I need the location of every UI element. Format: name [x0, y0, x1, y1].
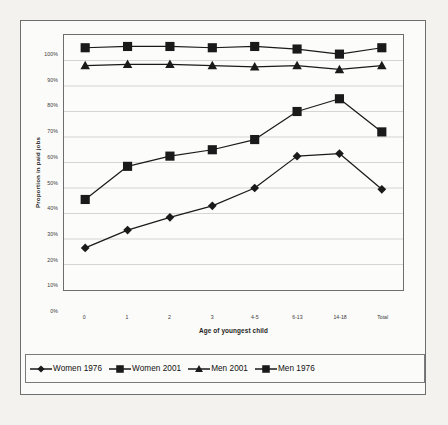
data-point [165, 42, 174, 51]
chart-canvas [64, 35, 403, 290]
y-axis-tick-labels: 100%90%80%70%60%50%40%30%20%10%0% [21, 54, 61, 311]
y-axis-title: Proportion in paid jobs [34, 113, 41, 233]
legend-entry[interactable]: Men 1976 [255, 364, 315, 374]
y-tick-label: 80% [47, 102, 58, 108]
data-point [292, 61, 302, 69]
legend-marker-square-icon [109, 364, 131, 374]
x-tick-label: 6-13 [292, 314, 302, 320]
data-point [165, 152, 174, 161]
legend-entries: Women 1976Women 2001Men 2001Men 1976 [30, 364, 322, 374]
data-point [208, 145, 217, 154]
data-point [81, 43, 90, 52]
chart-frame: 100%90%80%70%60%50%40%30%20%10%0% Propor… [20, 20, 426, 395]
data-point [292, 44, 301, 53]
data-point [377, 61, 387, 69]
y-tick-label: 10% [47, 282, 58, 288]
data-point [123, 162, 132, 171]
x-axis-title: Age of youngest child [63, 327, 404, 334]
y-tick-label: 50% [47, 180, 58, 186]
data-point [292, 107, 301, 116]
legend-entry[interactable]: Men 2001 [188, 364, 248, 374]
y-tick-label: 30% [47, 231, 58, 237]
y-tick-label: 40% [47, 205, 58, 211]
page-root: 100%90%80%70%60%50%40%30%20%10%0% Propor… [0, 0, 448, 425]
legend-label: Men 1976 [278, 364, 315, 373]
data-point [208, 43, 217, 52]
chart-legend: Women 1976Women 2001Men 2001Men 1976 [25, 354, 425, 383]
x-axis-tick-labels: 01234-56-1314-18Total [63, 314, 404, 326]
data-point [208, 201, 217, 210]
gridlines [64, 61, 403, 265]
data-point [250, 42, 259, 51]
y-tick-label: 0% [50, 308, 58, 314]
legend-label: Men 2001 [211, 364, 248, 373]
data-point [123, 42, 132, 51]
legend-entry[interactable]: Women 1976 [30, 364, 102, 374]
data-point [166, 213, 175, 222]
x-tick-label: 14-18 [333, 314, 346, 320]
legend-label: Women 1976 [53, 364, 102, 373]
y-tick-label: 60% [47, 154, 58, 160]
x-tick-label: 1 [125, 314, 128, 320]
data-point [377, 127, 386, 136]
y-tick-label: 100% [44, 51, 58, 57]
legend-entry[interactable]: Women 2001 [109, 364, 181, 374]
data-point [81, 195, 90, 204]
y-tick-label: 70% [47, 128, 58, 134]
y-tick-label: 20% [47, 257, 58, 263]
data-point [81, 244, 90, 253]
data-point [335, 50, 344, 59]
x-tick-label: 4-5 [251, 314, 259, 320]
data-point [377, 43, 386, 52]
y-tick-label: 90% [47, 77, 58, 83]
data-point [250, 135, 259, 144]
legend-marker-square-icon [255, 364, 277, 374]
data-point [123, 226, 132, 235]
x-tick-label: 2 [168, 314, 171, 320]
x-tick-label: 3 [211, 314, 214, 320]
legend-marker-diamond-icon [30, 364, 52, 374]
legend-label: Women 2001 [132, 364, 181, 373]
data-point [335, 94, 344, 103]
x-tick-label: 0 [83, 314, 86, 320]
plot-area [63, 34, 404, 291]
series-men-2001 [80, 60, 386, 74]
x-tick-label: Total [377, 314, 388, 320]
series-men-1976 [81, 42, 387, 59]
legend-marker-triangle-icon [188, 364, 210, 374]
